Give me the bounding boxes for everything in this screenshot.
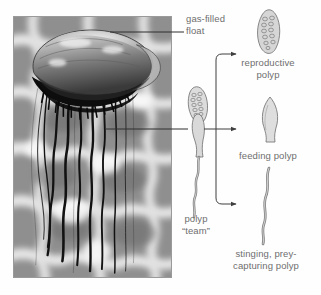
- label-gas-filled-float: gas-filled float: [186, 13, 266, 36]
- label-reproductive-polyp: reproductive polyp: [222, 57, 314, 80]
- label-feeding-polyp: feeding polyp: [222, 150, 314, 162]
- feeding-polyp-illustration: [262, 97, 277, 142]
- polyp-team-illustration: [188, 87, 207, 217]
- label-polyp-team: polyp “team”: [166, 213, 226, 236]
- stinging-polyp-illustration: [263, 168, 269, 244]
- portuguese-man-o-war-photo: [13, 16, 172, 278]
- label-stinging-prey-capturing-polyp: stinging, prey- capturing polyp: [214, 248, 318, 271]
- figure-canvas: gas-filled float polyp “team” reproducti…: [0, 0, 321, 295]
- photo-artwork: [14, 17, 171, 277]
